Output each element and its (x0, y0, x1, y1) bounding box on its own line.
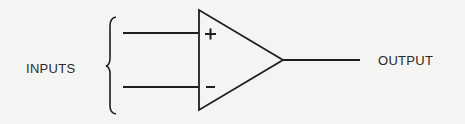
plus-sign-icon (205, 29, 216, 40)
amplifier-triangle (199, 10, 283, 110)
output-label: OUTPUT (378, 53, 433, 68)
op-amp-diagram: INPUTS OUTPUT (0, 0, 465, 124)
inputs-label: INPUTS (26, 61, 75, 76)
inputs-brace (106, 17, 116, 114)
